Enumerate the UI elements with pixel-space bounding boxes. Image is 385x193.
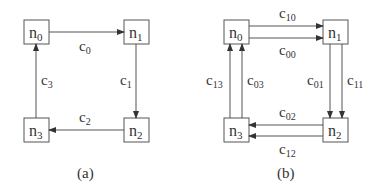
- node-a-n0: n0: [24, 20, 49, 44]
- edge-b-c11: c11: [342, 44, 363, 118]
- edge-b-c01: c01: [307, 44, 330, 118]
- edge-a-c2: c2: [49, 109, 124, 130]
- edge-a-c3: c3: [36, 44, 53, 118]
- svg-text:c11: c11: [347, 72, 363, 90]
- svg-text:c03: c03: [247, 72, 264, 90]
- node-b-n0: n0: [224, 20, 249, 44]
- diagram-a: n0 n1 n2 n3 c0 c1 c2 c3 (: [24, 20, 149, 182]
- svg-text:c0: c0: [79, 38, 91, 56]
- edge-b-c02: c02: [249, 104, 323, 125]
- node-b-n2: n2: [323, 118, 348, 142]
- edge-b-c10: c10: [249, 5, 323, 26]
- node-b-n1: n1: [323, 20, 348, 44]
- node-a-n1: n1: [124, 20, 149, 44]
- diagram-b: n0 n1 n2 n3 c10 c00 c01 c11: [206, 5, 363, 182]
- edge-a-c1: c1: [120, 44, 136, 118]
- svg-text:c13: c13: [206, 72, 223, 90]
- svg-text:c10: c10: [279, 5, 296, 23]
- node-b-n3: n3: [224, 118, 249, 142]
- caption-a: (a): [77, 165, 94, 182]
- svg-text:c02: c02: [279, 104, 296, 122]
- node-a-n3: n3: [24, 118, 49, 142]
- svg-text:c1: c1: [120, 72, 132, 90]
- node-a-n2: n2: [124, 118, 149, 142]
- svg-text:c01: c01: [307, 72, 324, 90]
- edge-b-c12: c12: [249, 136, 323, 159]
- edge-a-c0: c0: [49, 32, 124, 56]
- edge-b-c13: c13: [206, 44, 230, 118]
- caption-b: (b): [277, 165, 295, 182]
- edge-b-c03: c03: [242, 44, 264, 118]
- svg-text:c12: c12: [279, 141, 296, 159]
- diagram-canvas: n0 n1 n2 n3 c0 c1 c2 c3 (: [0, 0, 385, 193]
- svg-text:c00: c00: [279, 42, 296, 60]
- edge-b-c00: c00: [249, 38, 323, 60]
- svg-text:c2: c2: [79, 109, 91, 127]
- svg-text:c3: c3: [41, 72, 53, 90]
